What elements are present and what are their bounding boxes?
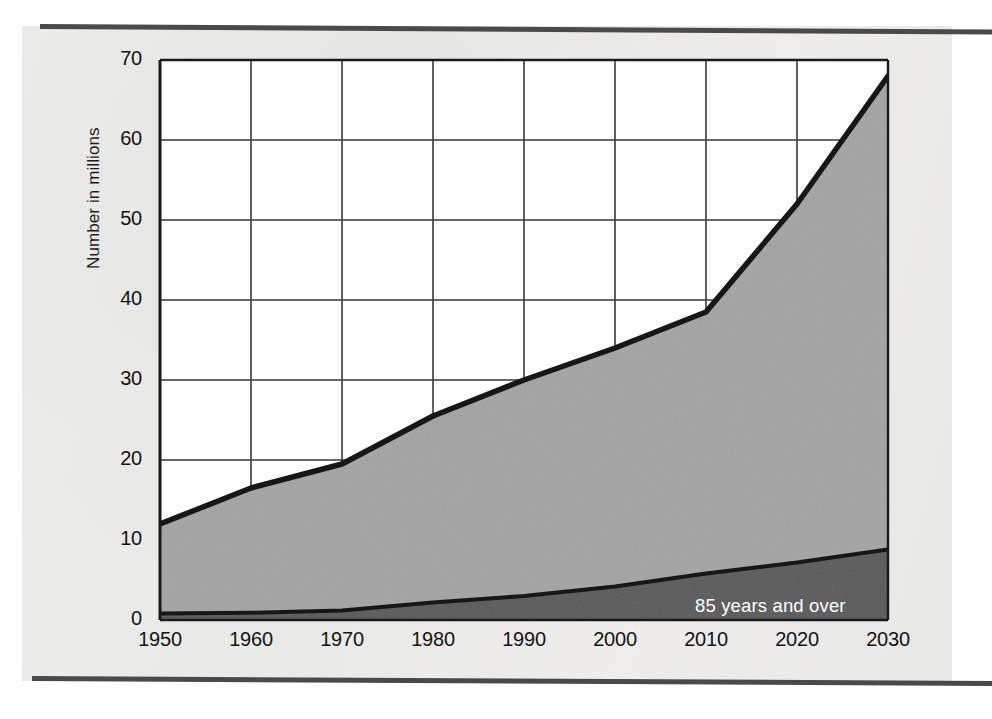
y-tick-40: 40	[94, 287, 142, 310]
y-tick-0: 0	[94, 607, 142, 630]
x-tick-1950: 1950	[120, 628, 200, 651]
x-tick-2020: 2020	[757, 628, 837, 651]
x-tick-1970: 1970	[302, 628, 382, 651]
series-annotation-85-plus: 85 years and over	[695, 595, 846, 617]
y-tick-20: 20	[94, 447, 142, 470]
x-tick-1990: 1990	[484, 628, 564, 651]
x-tick-1980: 1980	[393, 628, 473, 651]
x-tick-2010: 2010	[666, 628, 746, 651]
y-tick-30: 30	[94, 367, 142, 390]
x-tick-2030: 2030	[848, 628, 928, 651]
y-tick-10: 10	[94, 527, 142, 550]
x-tick-2000: 2000	[575, 628, 655, 651]
y-tick-70: 70	[94, 47, 142, 70]
y-tick-50: 50	[94, 207, 142, 230]
y-tick-60: 60	[94, 127, 142, 150]
x-tick-1960: 1960	[211, 628, 291, 651]
